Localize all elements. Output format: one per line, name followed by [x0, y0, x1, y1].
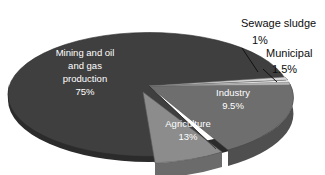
pie-chart: Mining and oil and gas production 75% Ag… [0, 0, 325, 175]
label-mining-line-2: and gas [68, 60, 102, 71]
label-agriculture-value: 13% [178, 131, 198, 142]
pie-chart-canvas: Mining and oil and gas production 75% Ag… [0, 0, 325, 175]
label-sewage-sludge-value: 1% [252, 34, 268, 46]
label-municipal-value: 1.5% [272, 63, 297, 75]
label-agriculture-name: Agriculture [165, 118, 210, 129]
label-industry-value: 9.5% [222, 100, 244, 111]
label-mining-line-3: production [63, 73, 107, 84]
label-mining-line-1: Mining and oil [56, 47, 115, 58]
label-industry-name: Industry [216, 87, 250, 98]
label-municipal-name: Municipal [266, 47, 312, 59]
label-sewage-sludge-name: Sewage sludge [241, 17, 316, 29]
label-mining-value: 75% [75, 86, 95, 97]
